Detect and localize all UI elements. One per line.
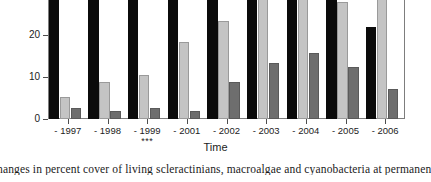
- bar-group: [49, 0, 82, 119]
- x-axis-tick: [68, 119, 69, 124]
- x-axis-tick: [227, 119, 228, 124]
- bar-group: [326, 0, 359, 119]
- y-axis-tick: [43, 35, 48, 36]
- x-axis-category-label: - 1997: [54, 126, 81, 136]
- x-axis-tick: [187, 119, 188, 124]
- x-axis-category-label: - 2005: [332, 126, 359, 136]
- bar: [139, 75, 150, 119]
- y-axis-tick-label: 0: [34, 114, 40, 124]
- x-axis-category-label: - 1998: [94, 126, 121, 136]
- x-axis-category-label: - 2001: [173, 126, 200, 136]
- bar-group: [207, 0, 240, 119]
- x-axis-tick: [346, 119, 347, 124]
- x-axis-category-label: - 2004: [292, 126, 319, 136]
- bar: [49, 0, 60, 119]
- bar-group: [287, 0, 320, 119]
- bar-group: [128, 0, 161, 119]
- bar: [337, 2, 348, 119]
- x-axis-category-label: - 2002: [213, 126, 240, 136]
- bar: [366, 27, 377, 119]
- bar: [88, 0, 99, 119]
- bar: [168, 0, 179, 119]
- x-axis-tick: [108, 119, 109, 124]
- bar: [298, 0, 309, 119]
- bar: [377, 0, 388, 119]
- bar-group: [168, 0, 201, 119]
- bar: [71, 108, 82, 119]
- bar: [179, 42, 190, 119]
- bar: [110, 111, 121, 119]
- bar: [258, 0, 269, 119]
- figure: 0102030 - 1997- 1998- 1999***- 2001- 200…: [0, 0, 431, 182]
- x-axis-category-label: - 2006: [372, 126, 399, 136]
- bar-group: [247, 0, 280, 119]
- x-axis-category-label: - 2003: [253, 126, 280, 136]
- x-axis-tick: [385, 119, 386, 124]
- bar: [287, 0, 298, 119]
- bar: [229, 82, 240, 119]
- x-axis-title: Time: [0, 141, 431, 153]
- figure-caption: hanges in percent cover of living sclera…: [0, 163, 431, 175]
- x-axis-category-label: - 1999: [134, 126, 161, 136]
- y-axis-tick: [43, 77, 48, 78]
- y-axis-tick-label: 20: [29, 30, 40, 40]
- bar: [60, 97, 71, 119]
- bar: [128, 0, 139, 119]
- bar: [190, 111, 201, 119]
- bar: [309, 53, 320, 119]
- bar: [150, 108, 161, 119]
- y-axis-tick-label: 10: [29, 72, 40, 82]
- bar: [218, 21, 229, 119]
- bar: [247, 0, 258, 119]
- x-axis-tick: [147, 119, 148, 124]
- bar: [326, 0, 337, 119]
- x-axis-tick: [306, 119, 307, 124]
- x-axis-tick: [266, 119, 267, 124]
- bar: [388, 89, 399, 119]
- bar-group: [366, 0, 399, 119]
- bar: [269, 63, 280, 119]
- bar: [99, 82, 110, 119]
- bar: [207, 0, 218, 119]
- bar-group: [88, 0, 121, 119]
- y-axis-tick: [43, 119, 48, 120]
- plot-area: 0102030: [48, 0, 405, 119]
- bar: [348, 67, 359, 119]
